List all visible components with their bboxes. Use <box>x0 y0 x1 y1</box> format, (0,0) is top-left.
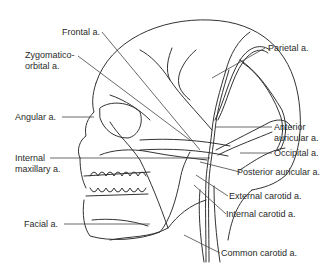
label-anterior-auricular-artery-line1: Anterior <box>274 122 306 132</box>
label-posterior-auricular-artery: Posterior auricular a. <box>237 167 320 177</box>
label-internal-maxillary-artery-line2: maxillary a. <box>15 164 61 174</box>
label-anterior-auricular-artery-line2: auricular a. <box>274 133 319 143</box>
label-internal-maxillary-artery-line1: Internal <box>15 153 45 163</box>
label-zygomatico-orbital-artery-line2: orbital a. <box>25 61 60 71</box>
label-angular-artery: Angular a. <box>15 112 56 122</box>
label-frontal-artery: Frontal a. <box>62 27 100 37</box>
label-facial-artery: Facial a. <box>24 219 58 229</box>
label-occipital-artery: Occipital a. <box>274 148 319 158</box>
label-external-carotid-artery: External carotid a. <box>229 191 302 201</box>
label-zygomatico-orbital-artery-line1: Zygomatico- <box>25 50 75 60</box>
label-parietal-artery: Parietal a. <box>268 43 309 53</box>
label-internal-carotid-artery: Internal carotid a. <box>226 209 296 219</box>
head-arteries-diagram: Frontal a. Zygomatico- orbital a. Angula… <box>0 0 332 271</box>
label-common-carotid-artery: Common carotid a. <box>221 248 297 258</box>
